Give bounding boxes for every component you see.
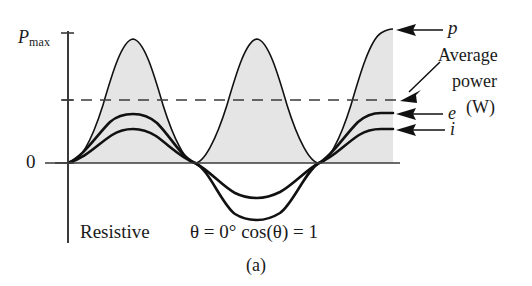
average-power-label-line1: Average [438, 46, 498, 64]
y-axis-zero-label: 0 [26, 152, 36, 171]
figure-caption: (a) [246, 256, 266, 274]
arrow-to-i [396, 124, 445, 136]
power-waveform-figure: Pmax 0 p e i Average power (W) Resistive… [0, 0, 532, 286]
plot-canvas [0, 0, 532, 286]
y-axis-pmax-label: Pmax [18, 28, 50, 48]
curve-label-i: i [450, 120, 455, 138]
pmax-symbol: P [18, 27, 29, 47]
pmax-subscript: max [29, 35, 50, 49]
phase-angle-label: θ = 0° cos(θ) = 1 [190, 222, 318, 241]
arrow-to-p [396, 24, 443, 36]
average-power-label-unit: (W) [466, 98, 495, 116]
arrow-to-average-power [400, 62, 440, 103]
curve-label-p: p [448, 18, 458, 37]
average-power-label-line2: power [452, 72, 497, 90]
condition-label: Resistive [80, 222, 150, 241]
power-fill-region [68, 29, 393, 163]
arrow-to-e [396, 108, 443, 120]
